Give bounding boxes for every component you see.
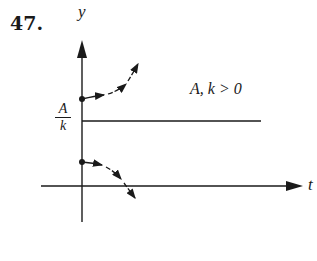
phase-diagram — [0, 0, 317, 261]
y-axis — [77, 40, 87, 222]
y-axis-arrow-icon — [77, 40, 87, 58]
t-axis — [41, 181, 303, 191]
t-axis-arrow-icon — [286, 181, 303, 191]
lower-solution-curve — [79, 159, 135, 198]
upper-solution-curve — [79, 64, 138, 102]
